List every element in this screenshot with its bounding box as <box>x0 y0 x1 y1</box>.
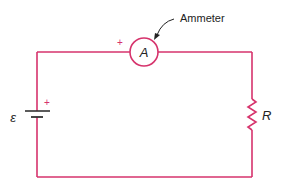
circuit-diagram: A + Ammeter + ε R <box>0 0 285 188</box>
resistor-label: R <box>262 108 271 123</box>
battery-emf-label: ε <box>10 110 16 125</box>
ammeter-symbol: A <box>139 45 149 60</box>
ammeter: A + Ammeter <box>117 12 225 66</box>
resistor-zigzag <box>248 99 256 130</box>
ammeter-plus-mark: + <box>117 37 123 48</box>
arrowhead-icon <box>154 33 160 40</box>
battery: + ε <box>10 97 50 125</box>
battery-plus-mark: + <box>44 97 50 108</box>
circuit-wires <box>37 52 252 177</box>
ammeter-callout-label: Ammeter <box>180 12 225 24</box>
ammeter-callout-arrow <box>157 19 174 35</box>
resistor: R <box>248 99 271 130</box>
